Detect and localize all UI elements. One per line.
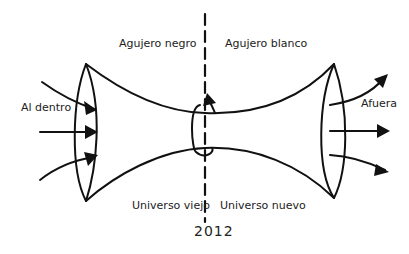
label-inward: Al dentro <box>21 101 71 114</box>
outward-arrowhead-2 <box>377 124 390 138</box>
lower-funnel-curve <box>86 148 334 201</box>
label-black-hole: Agujero negro <box>119 37 197 50</box>
label-white-hole: Agujero blanco <box>225 37 307 50</box>
label-new-universe: Universo nuevo <box>220 199 306 212</box>
wormhole-diagram <box>0 0 409 254</box>
upper-funnel-curve <box>86 64 334 113</box>
label-old-universe: Universo viejo <box>132 199 210 212</box>
label-outward: Afuera <box>361 97 397 110</box>
label-year: 2012 <box>194 223 234 239</box>
outward-arrowhead-3 <box>374 164 389 176</box>
inward-arrow-3 <box>40 157 94 180</box>
